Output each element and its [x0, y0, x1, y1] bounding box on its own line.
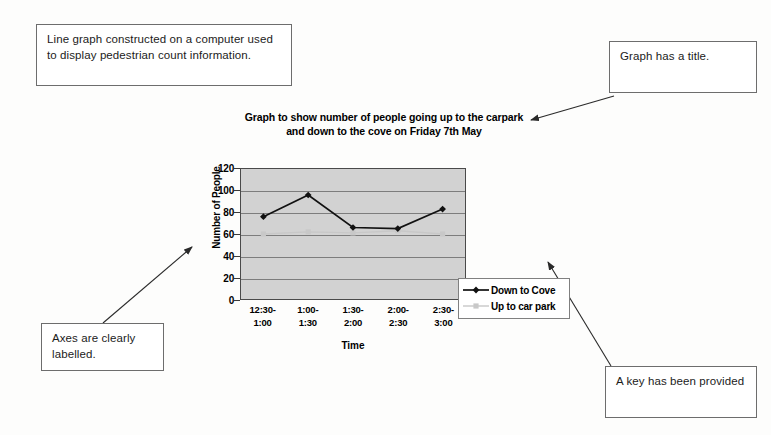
worksheet-page: Line graph constructed on a computer use…	[0, 0, 771, 435]
legend-label: Down to Cove	[491, 285, 555, 296]
series-marker	[350, 230, 355, 235]
annotation-note-axes: Axes are clearly labelled.	[41, 323, 164, 371]
legend-marker-glyph	[473, 287, 480, 294]
y-axis-tick-label: 120	[202, 163, 234, 174]
chart-title-line-1: Graph to show number of people going up …	[245, 111, 524, 123]
y-axis-tick-label: 40	[202, 251, 234, 262]
x-axis-tick-label: 2:00- 2:30	[388, 304, 409, 329]
chart-title: Graph to show number of people going up …	[224, 110, 544, 138]
x-axis-tick-label: 12:30- 1:00	[249, 304, 275, 329]
x-axis-title: Time	[240, 340, 466, 351]
y-axis-tick-label: 20	[202, 273, 234, 284]
legend-marker-glyph	[473, 303, 478, 308]
legend-item: Down to Cove	[461, 282, 565, 298]
chart-title-line-2: and down to the cove on Friday 7th May	[286, 125, 482, 137]
y-axis-tick-label: 60	[202, 229, 234, 240]
x-axis-tick-labels: 12:30- 1:001:00- 1:301:30- 2:002:00- 2:3…	[240, 304, 466, 338]
leader-line-axes	[103, 247, 192, 323]
annotation-note-line-graph: Line graph constructed on a computer use…	[36, 24, 292, 86]
annotation-note-key: A key has been provided	[605, 366, 757, 418]
chart-legend: Down to CoveUp to car park	[458, 278, 570, 319]
annotation-note-title: Graph has a title.	[609, 41, 757, 93]
y-axis-tickmark	[234, 300, 240, 301]
legend-marker-icon	[461, 284, 491, 296]
series-marker	[260, 213, 267, 220]
line-chart: Graph to show number of people going up …	[196, 110, 586, 375]
legend-label: Up to car park	[491, 301, 555, 312]
series-line	[263, 195, 442, 229]
series-marker	[439, 206, 446, 213]
plot-area	[240, 168, 466, 300]
y-axis-tick-labels: 020406080100120	[202, 168, 234, 300]
legend-marker-icon	[461, 300, 491, 312]
y-axis-tick-label: 100	[202, 185, 234, 196]
x-axis-tick-label: 2:30- 3:00	[433, 304, 454, 329]
plot-wrapper: Number of People 020406080100120 12:30- …	[196, 168, 586, 368]
series-marker	[306, 229, 311, 234]
series-marker	[440, 231, 445, 236]
y-axis-tick-label: 0	[202, 295, 234, 306]
series-layer	[241, 169, 465, 299]
series-marker	[261, 231, 266, 236]
legend-item: Up to car park	[461, 298, 565, 314]
y-axis-tick-label: 80	[202, 207, 234, 218]
x-axis-tick-label: 1:00- 1:30	[297, 304, 318, 329]
x-axis-tick-label: 1:30- 2:00	[342, 304, 363, 329]
